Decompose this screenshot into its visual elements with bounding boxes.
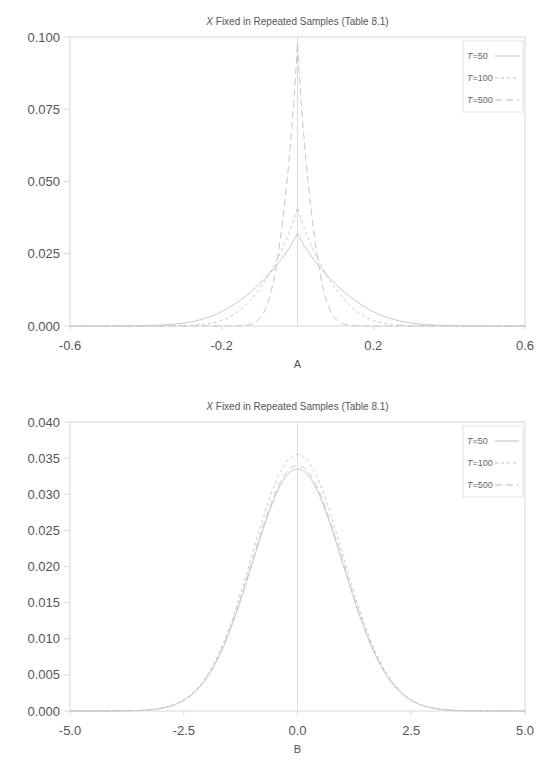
x-tick-label: 0.0 [288,723,306,738]
legend-label: T=100 [467,458,493,468]
legend-label: T=500 [467,480,493,490]
y-tick-label: 0.050 [27,174,60,189]
x-tick-label: 5.0 [516,723,534,738]
y-tick-label: 0.025 [27,246,60,261]
legend-label: T=100 [467,73,493,83]
y-tick-label: 0.040 [27,415,60,430]
chart-panel-a: X Fixed in Repeated Samples (Table 8.1)0… [0,0,556,385]
legend-label: T=50 [467,51,488,61]
y-tick-label: 0.020 [27,559,60,574]
legend: T=50T=100T=500 [463,426,523,497]
x-tick-label: -0.6 [59,338,81,353]
legend: T=50T=100T=500 [463,41,523,112]
chart-panel-b: X Fixed in Repeated Samples (Table 8.1)0… [0,385,556,770]
legend-label: T=50 [467,436,488,446]
y-tick-label: 0.100 [27,30,60,45]
chart-title: X Fixed in Repeated Samples (Table 8.1) [205,16,388,27]
y-tick-label: 0.010 [27,631,60,646]
x-axis-label: A [294,358,302,370]
y-tick-label: 0.035 [27,451,60,466]
y-tick-label: 0.075 [27,102,60,117]
x-tick-label: -5.0 [59,723,81,738]
density-chart-a: X Fixed in Repeated Samples (Table 8.1)0… [0,0,556,385]
y-tick-label: 0.000 [27,704,60,719]
x-tick-label: 0.2 [364,338,382,353]
x-tick-label: 2.5 [402,723,420,738]
x-tick-label: -0.2 [210,338,232,353]
x-axis-label: B [294,743,301,755]
y-tick-label: 0.025 [27,523,60,538]
x-tick-label: 0.6 [516,338,534,353]
y-tick-label: 0.005 [27,667,60,682]
density-chart-b: X Fixed in Repeated Samples (Table 8.1)0… [0,385,556,770]
legend-label: T=500 [467,95,493,105]
x-tick-label: -2.5 [173,723,195,738]
chart-title: X Fixed in Repeated Samples (Table 8.1) [205,401,388,412]
y-tick-label: 0.015 [27,595,60,610]
y-tick-label: 0.000 [27,319,60,334]
y-tick-label: 0.030 [27,487,60,502]
